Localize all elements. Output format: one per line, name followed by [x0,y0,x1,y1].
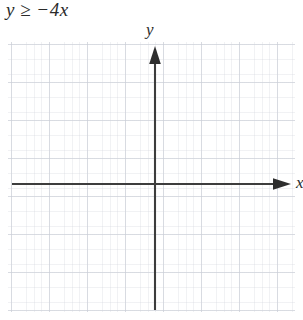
graph-figure: y ≥ −4x y x [0,0,303,320]
x-axis-label: x [296,173,303,193]
y-axis-arrowhead [149,46,161,64]
y-axis-label: y [146,20,154,40]
axes-layer [0,0,303,320]
x-axis-arrowhead [273,178,291,190]
